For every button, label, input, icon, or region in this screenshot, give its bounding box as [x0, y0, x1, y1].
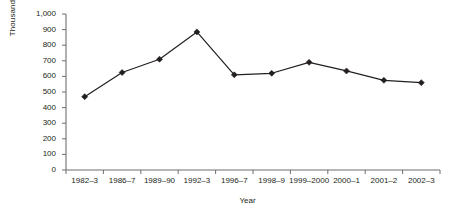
x-axis-tick-label: 1999–2000 [289, 176, 329, 185]
x-axis-tick-label: 1982–3 [71, 176, 98, 185]
axis-lines [66, 14, 440, 170]
data-line [85, 32, 422, 97]
x-axis-tick-label: 2000–1 [333, 176, 360, 185]
data-point-marker [82, 94, 88, 100]
x-axis-tick-label: 1992–3 [184, 176, 211, 185]
data-point-marker [344, 68, 350, 74]
data-point-marker [306, 59, 312, 65]
x-axis-tick-label: 1998–9 [258, 176, 285, 185]
x-axis-ticks [66, 170, 440, 174]
x-axis-tick-label: 1986–7 [109, 176, 136, 185]
x-axis-title: Year [0, 196, 453, 205]
y-axis-ticks [62, 14, 66, 170]
data-point-marker [119, 70, 125, 76]
x-axis-tick-labels: 1982–31986–71989–901992–31996–71998–9199… [0, 176, 453, 192]
line-chart: Thousands 01002003004005006007008009001,… [0, 0, 453, 218]
x-axis-tick-label: 2002–3 [408, 176, 435, 185]
data-point-marker [269, 70, 275, 76]
data-markers [82, 29, 425, 100]
x-axis-tick-label: 1996–7 [221, 176, 248, 185]
x-axis-tick-label: 1989–90 [144, 176, 175, 185]
x-axis-title-text: Year [239, 196, 255, 205]
x-axis-tick-label: 2001–2 [371, 176, 398, 185]
data-point-marker [418, 80, 424, 86]
data-point-marker [381, 77, 387, 83]
